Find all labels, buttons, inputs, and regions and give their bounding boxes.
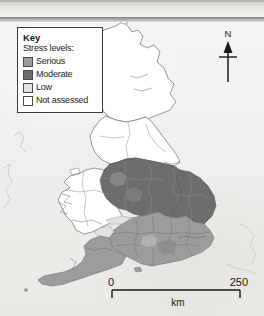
key-item-low: Low xyxy=(23,81,97,94)
key-swatch-not-assessed xyxy=(23,96,33,106)
map-key-legend: Key Stress levels: Serious Moderate Low … xyxy=(17,27,103,113)
key-label-low: Low xyxy=(36,82,52,93)
scale-bar-unit-label: km xyxy=(108,297,248,308)
north-arrow-label: N xyxy=(214,28,242,39)
key-label-not-assessed: Not assessed xyxy=(36,95,88,106)
key-item-not-assessed: Not assessed xyxy=(23,94,97,107)
key-title: Key xyxy=(23,32,97,43)
key-subtitle: Stress levels: xyxy=(23,43,97,54)
map-ireland-coast xyxy=(4,132,26,208)
page-edge-hairline xyxy=(0,0,264,2)
key-item-moderate: Moderate xyxy=(23,68,97,81)
scale-bar-min-label: 0 xyxy=(108,276,114,288)
map-figure: Key Stress levels: Serious Moderate Low … xyxy=(0,0,264,316)
map-continent-coast xyxy=(226,224,256,274)
key-label-serious: Serious xyxy=(36,56,65,67)
page-edge-shadow xyxy=(0,0,264,17)
key-label-moderate: Moderate xyxy=(36,69,72,80)
north-arrow-icon xyxy=(214,40,242,84)
key-item-serious: Serious xyxy=(23,55,97,68)
key-swatch-moderate xyxy=(23,70,33,80)
key-swatch-low xyxy=(23,83,33,93)
page-edge-darkline xyxy=(0,17,264,22)
scale-bar-max-label: 250 xyxy=(230,276,248,288)
north-arrow: N xyxy=(214,28,242,82)
map-scale-bar: 0 250 km xyxy=(108,276,248,310)
key-swatch-serious xyxy=(23,57,33,67)
